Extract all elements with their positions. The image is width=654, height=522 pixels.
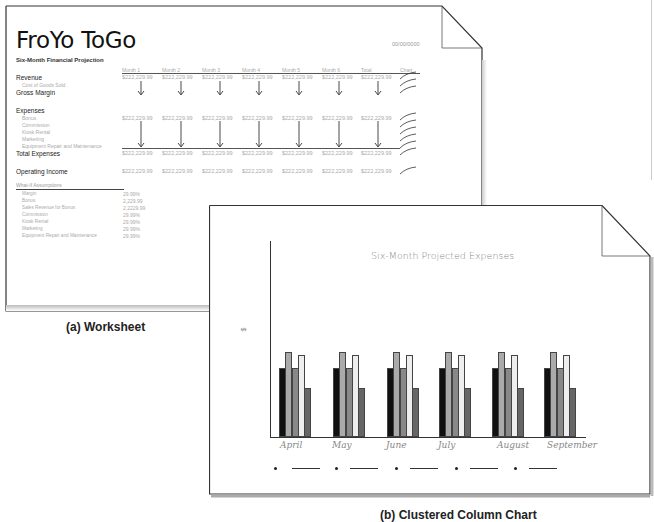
legend-entry-blank — [470, 468, 498, 469]
chart-bar — [304, 388, 311, 437]
legend-marker — [274, 467, 277, 470]
row-label-total-expenses: Total Expenses — [16, 150, 60, 157]
arrow-down-icon — [176, 81, 186, 97]
sparkline-icon — [400, 86, 416, 93]
arrow-down-icon — [334, 81, 344, 97]
row-label-revenue: Revenue — [16, 74, 42, 81]
assumption-label-bonus: Bonus — [22, 198, 35, 203]
chart-page — [209, 205, 650, 495]
assumptions-rule — [16, 189, 124, 190]
row-label-operating-income: Operating Income — [16, 168, 68, 175]
x-label-june: June — [386, 440, 407, 450]
worksheet-subtitle: Six-Month Financial Projection — [16, 57, 104, 63]
sparkline-icon — [400, 120, 416, 127]
arrow-down-icon — [294, 121, 304, 149]
assumption-label-equipment: Equipment Repair and Maintenance — [22, 233, 97, 238]
chart-y-axis — [270, 241, 271, 437]
legend-marker — [335, 467, 338, 470]
chart-bar — [412, 388, 419, 437]
row-label-kiosk-rental: Kiosk Rental — [22, 129, 50, 135]
assumption-value-equipment: 29.99% — [123, 233, 140, 239]
assumption-value-sales-revenue: 2,2229.99 — [123, 205, 145, 211]
op-income-m3: $222,229.99 — [202, 168, 233, 174]
chart-bar — [517, 388, 524, 437]
arrow-down-icon — [373, 121, 383, 149]
arrow-down-icon — [334, 121, 344, 149]
assumption-value-marketing: 29.99% — [123, 226, 140, 232]
sparkline-icon — [400, 167, 416, 174]
row-label-bonus: Bonus — [22, 115, 36, 121]
arrow-down-icon — [254, 81, 264, 97]
op-income-m1: $222,229.99 — [122, 168, 153, 174]
revenue-m5: $222,229.99 — [282, 74, 313, 80]
arrow-down-icon — [254, 121, 264, 149]
legend-entry-blank — [292, 468, 320, 469]
chart-bar — [550, 352, 557, 437]
total-exp-m3: $222,229.99 — [202, 150, 233, 156]
chart-bar — [445, 352, 452, 437]
legend-entry-blank — [529, 468, 557, 469]
sparkline-icon — [400, 134, 416, 141]
legend-marker — [514, 467, 517, 470]
row-label-expenses: Expenses — [16, 107, 45, 114]
assumption-value-kiosk-rental: 29.99% — [123, 219, 140, 225]
x-label-august: August — [497, 440, 529, 450]
assumption-label-commission: Commission — [22, 212, 48, 217]
arrow-down-icon — [176, 121, 186, 149]
revenue-m6: $222,229.99 — [322, 74, 353, 80]
assumption-value-margin: 29.99% — [123, 191, 140, 197]
row-label-equipment: Equipment Repair and Maintenance — [22, 143, 102, 149]
arrow-down-icon — [373, 81, 383, 97]
background-page-edge — [651, 0, 652, 180]
revenue-total: $222,229.99 — [361, 74, 392, 80]
arrow-down-icon — [136, 121, 146, 149]
op-income-m6: $222,229.99 — [322, 168, 353, 174]
assumption-value-commission: 29.99% — [123, 212, 140, 218]
row-label-cogs: Cost of Goods Sold — [22, 82, 65, 88]
total-rule — [122, 148, 400, 149]
op-income-m4: $222,229.99 — [242, 168, 273, 174]
assumption-label-kiosk-rental: Kiosk Rental — [22, 219, 48, 224]
legend-marker — [395, 467, 398, 470]
chart-bar — [569, 388, 576, 437]
arrow-down-icon — [294, 81, 304, 97]
total-exp-m2: $222,229.99 — [162, 150, 193, 156]
assumptions-header: What-If Assumptions — [16, 182, 62, 188]
chart-x-axis — [270, 437, 586, 438]
x-label-september: September — [547, 440, 597, 450]
row-label-gross-margin: Gross Margin — [16, 89, 55, 96]
op-income-m5: $222,229.99 — [282, 168, 313, 174]
revenue-m1: $222,229.99 — [122, 74, 153, 80]
chart-title: Six-Month Projected Expenses — [371, 250, 514, 261]
legend-marker — [455, 467, 458, 470]
chart-bar — [464, 388, 471, 437]
sparkline-icon — [400, 72, 416, 79]
sparkline-icon — [400, 141, 416, 148]
total-exp-total: $222,229.99 — [361, 150, 392, 156]
x-label-july: July — [438, 440, 455, 450]
revenue-m2: $222,229.99 — [162, 74, 193, 80]
x-label-may: May — [332, 440, 352, 450]
sparkline-icon — [400, 148, 416, 155]
revenue-m3: $222,229.99 — [202, 74, 233, 80]
arrow-down-icon — [136, 81, 146, 97]
caption-chart: (b) Clustered Column Chart — [380, 508, 537, 522]
chart-bar — [393, 352, 400, 437]
arrow-down-icon — [215, 121, 225, 149]
assumption-value-bonus: 2,229.99 — [123, 198, 142, 204]
sparkline-icon — [400, 113, 416, 120]
chart-y-axis-label: $ — [240, 328, 247, 332]
assumption-label-margin: Margin — [22, 191, 36, 196]
total-exp-m5: $222,229.99 — [282, 150, 313, 156]
x-label-april: April — [280, 440, 302, 450]
sparkline-column — [398, 69, 422, 189]
chart-bar — [339, 352, 346, 437]
sparkline-icon — [400, 79, 416, 86]
arrow-down-icon — [215, 81, 225, 97]
revenue-m4: $222,229.99 — [242, 74, 273, 80]
assumption-label-marketing: Marketing — [22, 226, 43, 231]
total-exp-m6: $222,229.99 — [322, 150, 353, 156]
worksheet-date: 00/00/0000 — [392, 41, 420, 47]
op-income-m2: $222,229.99 — [162, 168, 193, 174]
chart-bar — [498, 352, 505, 437]
